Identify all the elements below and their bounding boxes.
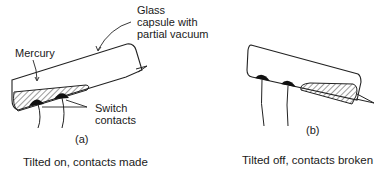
- wire-a1: [38, 104, 40, 128]
- glass-leader: [98, 22, 131, 50]
- mercury-label: Mercury: [15, 47, 55, 59]
- mercury-pool-b: [301, 83, 357, 104]
- panel-b-id: (b): [306, 124, 319, 136]
- panel-a-id: (a): [75, 133, 88, 145]
- switch-leader-2: [66, 100, 87, 107]
- switch-contacts-label: Switch contacts: [95, 102, 136, 126]
- glass-label-line1: Glass: [137, 4, 209, 16]
- glass-capsule-label: Glass capsule with partial vacuum: [137, 4, 209, 40]
- switch-label-line1: Switch: [95, 102, 136, 114]
- wire-a2: [62, 98, 64, 128]
- caption-b: Tilted off, contacts broken: [242, 154, 373, 166]
- wire-b1: [261, 80, 264, 126]
- contact-b2: [281, 81, 296, 87]
- wire-b2: [287, 86, 288, 126]
- caption-a: Tilted on, contacts made: [23, 156, 148, 168]
- switch-label-line2: contacts: [95, 114, 136, 126]
- contact-b1: [255, 75, 270, 81]
- glass-label-line3: partial vacuum: [137, 28, 209, 40]
- glass-label-line2: capsule with: [137, 16, 209, 28]
